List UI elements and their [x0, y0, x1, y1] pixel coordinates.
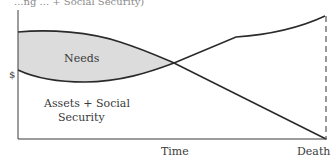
y-axis-label: $ — [9, 69, 15, 80]
assets-label-line1: Assets + Social — [43, 97, 130, 110]
assets-label-line2: Security — [58, 111, 105, 124]
x-axis-death-label: Death — [297, 145, 330, 158]
needs-label: Needs — [64, 52, 100, 65]
needs-vs-assets-diagram: ...ng ... + Social Security) Needs Asset… — [0, 0, 334, 162]
caption-fragment: ...ng ... + Social Security) — [14, 0, 144, 7]
x-axis-time-label: Time — [161, 145, 189, 158]
